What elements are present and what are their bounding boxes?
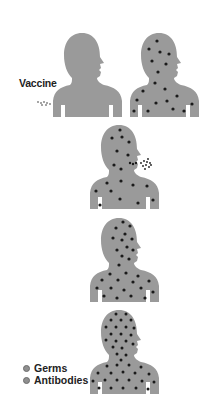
germ-icon — [23, 365, 30, 372]
legend: Germs Antibodies — [23, 362, 88, 386]
vaccine-particles-icon — [36, 92, 52, 98]
legend-item-antibodies: Antibodies — [23, 374, 88, 386]
legend-label: Germs — [34, 362, 67, 374]
antibody-icon — [23, 377, 30, 384]
legend-label: Antibodies — [34, 374, 88, 386]
figure-stage-1 — [52, 29, 124, 117]
legend-item-germs: Germs — [23, 362, 88, 374]
figure-stage-3 — [89, 121, 161, 209]
figure-stage-2 — [129, 29, 201, 117]
figure-stage-4 — [89, 214, 161, 302]
figure-stage-5 — [89, 306, 161, 394]
